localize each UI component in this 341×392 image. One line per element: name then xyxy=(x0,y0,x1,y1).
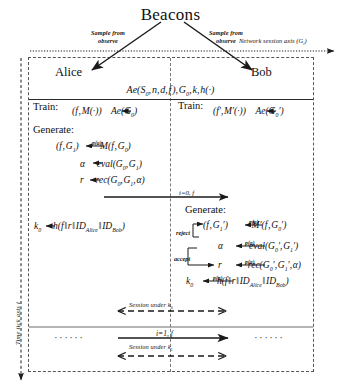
right-train-keyword: Train: xyxy=(178,101,203,112)
diagram-canvas: Beacons xyxy=(0,0,341,392)
reject-branch-bracket xyxy=(193,224,203,237)
network-session-axis-label: Network session axis (Gi) xyxy=(239,38,307,46)
accept-branch-label: accept xyxy=(174,256,190,262)
right-gen1-pa-label: p(a) xyxy=(249,220,259,226)
party-label-alice: Alice xyxy=(55,66,82,79)
left-train-equation: (f , M(·)) Ae(G0) xyxy=(72,107,137,119)
accept-branch-bracket xyxy=(188,248,214,265)
party-label-bob: Bob xyxy=(251,66,272,79)
session-label-k1: Session under k1 xyxy=(129,344,173,352)
sample-right-line1: Sample from xyxy=(209,29,243,36)
sample-right-line2: observe xyxy=(216,37,236,44)
left-train-keyword: Train: xyxy=(33,102,58,113)
reject-branch-label: reject xyxy=(176,230,190,236)
transfer-label-tick-1: i=1, f xyxy=(156,330,173,338)
right-generate-line-1: (f , G1′) M′(f , G0′) xyxy=(203,221,286,233)
right-train-equation: (f′, M′(·)) Ae(G0′) xyxy=(213,107,284,119)
left-generate-keyword: Generate: xyxy=(33,125,74,136)
left-generate-line-2: α eval(G0, G1) xyxy=(80,160,142,172)
right-generate-line-3: r rec(G0′, G1′, α) xyxy=(218,261,301,273)
ellipsis-right: ······ xyxy=(254,332,284,343)
left-key-derivation: k0 h(f ‖ r ‖ IDAlice ‖ IDBob) xyxy=(34,222,125,234)
right-gen3-pa-label: p(a) xyxy=(245,260,255,266)
sample-left-line1: Sample from xyxy=(91,29,125,36)
session-label-k0: Session under k0 xyxy=(129,302,173,310)
transfer-label-tick-0: i=0, f xyxy=(179,190,194,197)
ellipsis-left: ······ xyxy=(54,332,84,343)
right-generate-keyword: Generate: xyxy=(185,205,226,216)
right-key-pa-label: p(a) xyxy=(213,276,223,282)
right-key-derivation: k0 h(f ‖ r ‖ IDAlice ‖ IDBob) xyxy=(186,277,289,289)
parameters-rule xyxy=(29,99,313,100)
beacon-sample-label-left: Sample from observe xyxy=(78,29,138,45)
left-generate-line-3: r rec(G0, G1, α) xyxy=(80,176,145,188)
time-tick-axis-label: Time tick axis i xyxy=(14,284,21,364)
shared-parameters: Ae(S0, n, d, f ), G0, k, h(·) xyxy=(0,85,341,97)
left-gen1-pa-label: p(a) xyxy=(92,141,102,147)
right-gen2-pa-label: p(a) xyxy=(245,241,255,247)
right-generate-line-2: α eval(G0′, G1′) xyxy=(218,242,298,254)
sample-left-line2: observe xyxy=(98,37,118,44)
